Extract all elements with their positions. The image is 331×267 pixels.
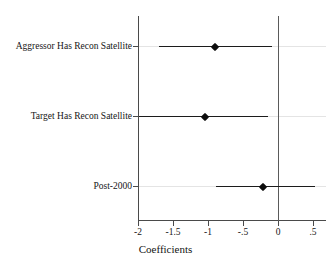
zero-reference-line: [278, 16, 279, 221]
y-axis-label-target-has-recon-satellite: Target Has Recon Satellite: [4, 111, 132, 121]
y-tick-2: [133, 116, 138, 117]
y-axis-label-aggressor-has-recon-satellite: Aggressor Has Recon Satellite: [4, 41, 132, 51]
x-tick-label-5: .5: [305, 227, 321, 238]
x-tick-label-3: -.5: [232, 227, 254, 238]
coefficient-marker-row-3: [259, 182, 267, 190]
x-tick-2: [208, 221, 209, 226]
x-tick-0: [138, 221, 139, 226]
y-axis-line: [138, 16, 139, 221]
x-tick-5: [313, 221, 314, 226]
x-tick-4: [278, 221, 279, 226]
coefficient-plot: Aggressor Has Recon Satellite Target Has…: [0, 0, 331, 267]
x-tick-1: [173, 221, 174, 226]
x-tick-label-2: -1: [198, 227, 218, 238]
coefficient-marker-row-2: [201, 112, 209, 120]
x-tick-label-0: -2: [128, 227, 148, 238]
x-tick-label-1: -1.5: [161, 227, 185, 238]
y-tick-1: [133, 46, 138, 47]
y-tick-3: [133, 186, 138, 187]
coefficient-marker-row-1: [211, 42, 219, 50]
y-axis-label-post-2000: Post-2000: [4, 181, 132, 191]
x-axis-line: [138, 220, 326, 221]
x-tick-3: [243, 221, 244, 226]
x-tick-label-4: 0: [270, 227, 286, 238]
x-axis-title: Coefficients: [0, 243, 331, 256]
